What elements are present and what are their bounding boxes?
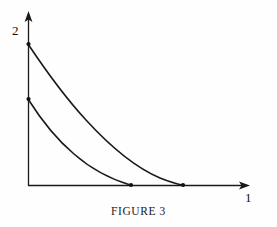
y-axis-label: 2 (12, 24, 19, 37)
figure-page: 2 1 FIGURE 3 (0, 0, 277, 227)
upper-curve (26, 42, 185, 187)
figure-caption: FIGURE 3 (0, 205, 277, 217)
x-axis-good-1 (28, 182, 250, 190)
upper-curve-start-marker (26, 42, 30, 46)
upper-curve-end-marker (181, 183, 185, 187)
lower-curve (26, 97, 133, 187)
lower-curve-start-marker (26, 97, 30, 101)
figure-canvas (0, 0, 277, 227)
lower-curve-end-marker (129, 183, 133, 187)
upper-curve-path (28, 44, 183, 185)
x-axis-label: 1 (245, 191, 252, 204)
